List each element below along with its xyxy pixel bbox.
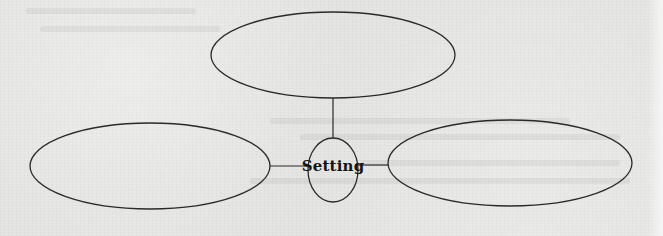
ellipse-left[interactable] [30, 123, 270, 209]
page-edge [647, 0, 663, 236]
ellipse-top[interactable] [211, 12, 455, 98]
center-label-setting: Setting [296, 157, 370, 175]
ellipse-right[interactable] [388, 120, 632, 206]
setting-organizer-diagram [0, 0, 663, 236]
